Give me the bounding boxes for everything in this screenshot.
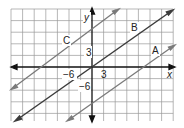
line-b-label: B — [131, 22, 138, 33]
coordinate-plane: 3 −6 −6 3 y x C B A — [0, 0, 184, 128]
x-axis-arrow-left-icon — [11, 65, 17, 70]
x-axis-label: x — [166, 69, 173, 80]
tick-x-neg6: −6 — [63, 69, 75, 80]
tick-y-neg6: −6 — [79, 81, 91, 92]
line-a-label: A — [152, 45, 159, 56]
y-axis-label: y — [83, 12, 90, 23]
tick-y-3: 3 — [86, 47, 92, 58]
arrow-icon — [11, 85, 18, 90]
tick-x-3: 3 — [101, 69, 107, 80]
arrow-icon — [15, 116, 22, 121]
arrow-icon — [167, 10, 174, 15]
arrow-icon — [113, 9, 120, 14]
line-c-label: C — [63, 35, 70, 46]
y-axis-arrow-down-icon — [90, 116, 95, 122]
arrow-icon — [169, 45, 176, 50]
arrow-icon — [67, 116, 74, 121]
labels: 3 −6 −6 3 y x C B A — [62, 12, 173, 92]
